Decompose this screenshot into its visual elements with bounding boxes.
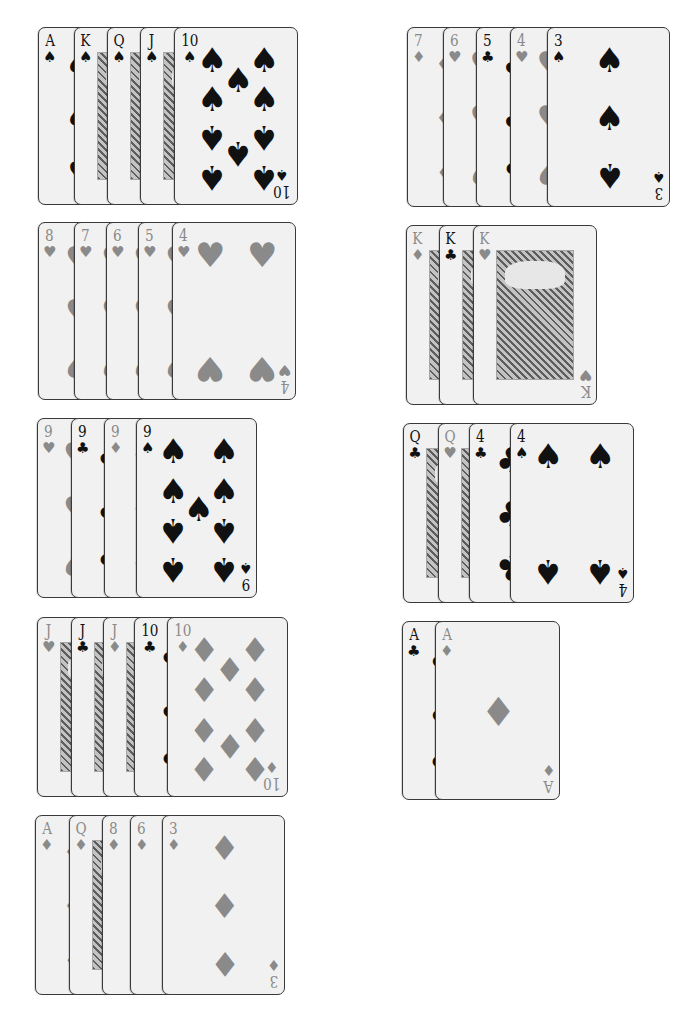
card-rank: 6 <box>137 820 146 837</box>
card-index: J♣ <box>76 622 89 655</box>
diamonds-icon: ♦ <box>108 640 121 655</box>
spades-icon: ♠ <box>43 50 56 65</box>
card-rank: 9 <box>44 423 53 440</box>
hearts-icon: ♥ <box>79 245 92 260</box>
card-index-bottom: 9♠ <box>239 560 252 593</box>
card-rank: 9 <box>78 423 87 440</box>
diamonds-icon: ♦ <box>440 644 453 659</box>
card-index: K♠ <box>79 32 92 65</box>
card-rank: 8 <box>45 227 54 244</box>
spades-pip-icon: ♠ <box>585 555 615 589</box>
hearts-icon: ♥ <box>515 50 528 65</box>
card-rank: J <box>80 622 85 639</box>
spades-pip-icon: ♠ <box>249 82 279 116</box>
card-rank: 10 <box>274 183 291 200</box>
card-rank: 10 <box>141 622 158 639</box>
card-index: 9♦ <box>109 423 122 456</box>
card-index: 7♥ <box>79 227 92 260</box>
card-rank: 4 <box>517 32 526 49</box>
card-9-of-spades[interactable]: 9♠♠♠♠♠♠♠♠♠♠9♠ <box>136 418 257 598</box>
diamonds-icon: ♦ <box>412 50 425 65</box>
card-index-bottom: 10♦ <box>261 759 283 792</box>
card-rank: 3 <box>169 820 178 837</box>
spades-pip-icon: ♠ <box>249 43 279 77</box>
diamonds-icon: ♦ <box>265 759 278 774</box>
card-rank: 3 <box>554 32 563 49</box>
spades-pip-icon: ♠ <box>209 514 239 548</box>
card-10-of-diamonds[interactable]: 10♦♦♦♦♦♦♦♦♦♦♦10♦ <box>167 617 288 797</box>
diamonds-pip-icon: ♦ <box>209 831 239 865</box>
card-rank: 3 <box>269 973 278 990</box>
card-index: K♥ <box>478 230 491 263</box>
card-index: A♦ <box>40 820 53 853</box>
card-index: 6♦ <box>135 820 148 853</box>
card-10-of-spades[interactable]: 10♠♠♠♠♠♠♠♠♠♠♠10♠ <box>174 27 298 205</box>
card-rank: J <box>46 622 51 639</box>
card-index-bottom: 10♠ <box>271 167 293 200</box>
card-rank: 6 <box>450 32 459 49</box>
clubs-icon: ♣ <box>481 50 494 65</box>
card-rank: 8 <box>109 820 118 837</box>
card-rank: A <box>442 626 452 643</box>
card-index: K♣ <box>444 230 457 263</box>
face-card-illustration <box>496 250 574 380</box>
hearts-icon: ♥ <box>43 245 56 260</box>
card-index: 10♣ <box>139 622 161 655</box>
card-4-of-spades[interactable]: 4♠♠♠♠♠4♠ <box>510 423 634 603</box>
card-index: 8♥ <box>43 227 56 260</box>
card-rank: 4 <box>517 428 526 445</box>
card-rank: A <box>42 820 52 837</box>
card-index: 4♥ <box>515 32 528 65</box>
card-K-of-hearts[interactable]: K♥K♥ <box>473 225 597 405</box>
clubs-icon: ♣ <box>407 644 420 659</box>
hearts-icon: ♥ <box>478 248 491 263</box>
card-index: 4♠ <box>515 428 528 461</box>
spades-icon: ♠ <box>183 50 196 65</box>
clubs-icon: ♣ <box>474 446 487 461</box>
spades-pip-icon: ♠ <box>533 439 563 473</box>
spades-icon: ♠ <box>141 441 154 456</box>
spades-pip-icon: ♠ <box>158 514 188 548</box>
diamonds-pip-icon: ♦ <box>189 752 219 786</box>
spades-pip-icon: ♠ <box>158 434 188 468</box>
card-rank: J <box>112 622 117 639</box>
card-rank: Q <box>113 32 124 49</box>
diamonds-pip-icon: ♦ <box>209 889 239 923</box>
hearts-pip-icon: ♥ <box>247 238 277 272</box>
hearts-icon: ♥ <box>579 367 592 382</box>
card-A-of-diamonds[interactable]: A♦♦A♦ <box>435 621 560 800</box>
card-index: 3♠ <box>552 32 565 65</box>
clubs-icon: ♣ <box>408 446 421 461</box>
hearts-pip-icon: ♥ <box>195 352 225 386</box>
card-3-of-diamonds[interactable]: 3♦♦♦♦3♦ <box>162 815 285 995</box>
diamonds-icon: ♦ <box>542 762 555 777</box>
card-index-bottom: 4♠ <box>616 565 629 598</box>
card-index: A♠ <box>43 32 56 65</box>
diamonds-pip-icon: ♦ <box>189 673 219 707</box>
clubs-icon: ♣ <box>76 441 89 456</box>
card-rank: A <box>409 626 419 643</box>
card-rank: 6 <box>113 227 122 244</box>
clubs-icon: ♣ <box>76 640 89 655</box>
spades-pip-icon: ♠ <box>209 553 239 587</box>
card-index: J♦ <box>108 622 121 655</box>
card-rank: 4 <box>280 378 289 395</box>
card-index: 3♦ <box>167 820 180 853</box>
card-index: Q♠ <box>112 32 126 65</box>
card-index: Q♦ <box>74 820 88 853</box>
card-index: 7♦ <box>412 32 425 65</box>
card-index: K♦ <box>411 230 424 263</box>
card-rank: 5 <box>483 32 492 49</box>
card-4-of-hearts[interactable]: 4♥♥♥♥♥4♥ <box>172 222 296 400</box>
diamonds-icon: ♦ <box>109 441 122 456</box>
card-index: J♥ <box>42 622 55 655</box>
card-3-of-spades[interactable]: 3♠♠♠♠3♠ <box>547 27 670 207</box>
spades-pip-icon: ♠ <box>197 82 227 116</box>
hearts-pip-icon: ♥ <box>247 352 277 386</box>
spades-icon: ♠ <box>275 167 288 182</box>
card-index: 6♥ <box>448 32 461 65</box>
card-rank: 5 <box>145 227 154 244</box>
hearts-icon: ♥ <box>111 245 124 260</box>
card-index: 9♣ <box>76 423 89 456</box>
diamonds-icon: ♦ <box>40 838 53 853</box>
